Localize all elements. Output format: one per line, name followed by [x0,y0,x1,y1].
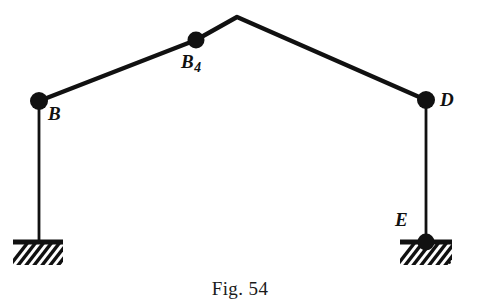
vertex-label-D-text: D [440,89,454,110]
ground-left-hatching [8,241,77,268]
joint-node-B4 [188,32,205,49]
joint-markers-group [30,32,435,251]
vertex-label-E: E [395,210,408,229]
vertex-label-B: B [48,104,61,123]
link-B-B4-apex-D [39,17,426,101]
vertex-label-B4-subscript: 4 [194,60,201,75]
mechanism-diagram [0,0,480,308]
figure-container: B B4 D E Fig. 54 [0,0,480,308]
ground-support-left [8,240,77,269]
vertex-label-B4: B4 [181,52,201,75]
joint-node-D [417,91,435,109]
vertex-label-D: D [440,90,454,109]
figure-caption: Fig. 54 [0,278,480,300]
ground-right-speck [448,261,451,264]
vertex-label-B4-text: B [181,51,194,72]
joint-node-B [30,92,48,110]
ground-left-speck [59,261,62,264]
vertex-label-E-text: E [395,209,408,230]
top-linkage-group [39,17,426,101]
vertex-label-B-text: B [48,103,61,124]
joint-node-E [418,234,435,251]
ground-left-bar [13,240,63,245]
